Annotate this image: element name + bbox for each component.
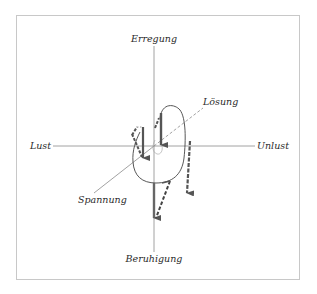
label-lust: Lust: [29, 140, 51, 151]
affect-dimensions-diagram: Erregung Beruhigung Lust Unlust Lösung S…: [0, 0, 317, 294]
label-erregung: Erregung: [130, 33, 177, 44]
diagonal-axis-lower: [94, 146, 154, 193]
arrows: [132, 113, 190, 218]
label-beruhigung: Beruhigung: [125, 253, 183, 264]
arrow-right-dashed: [187, 141, 190, 193]
label-spannung: Spannung: [78, 194, 127, 205]
axis-labels: Erregung Beruhigung Lust Unlust Lösung S…: [29, 33, 289, 264]
axes: [53, 46, 255, 252]
arrow-center-dashed: [155, 118, 159, 128]
label-loesung: Lösung: [202, 96, 238, 107]
arrow-left-top-dashed: [132, 127, 137, 135]
affect-loop-curve: [133, 106, 185, 183]
arrow-bottom-dashed: [156, 181, 170, 218]
label-unlust: Unlust: [257, 140, 289, 151]
